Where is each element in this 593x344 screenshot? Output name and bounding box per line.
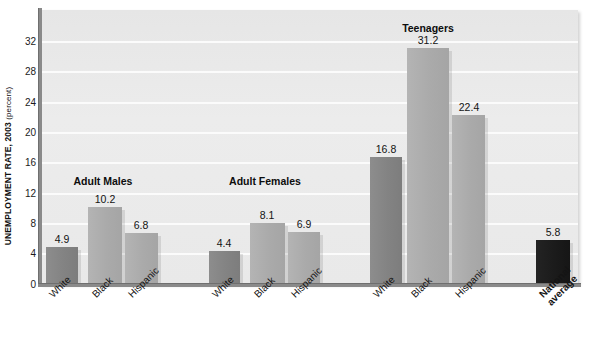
bar-value-adult-females-black: 8.1	[260, 209, 275, 221]
y-tick-20: 20	[14, 127, 36, 138]
y-tick-32: 32	[14, 36, 36, 47]
group-title-adult-males: Adult Males	[74, 175, 133, 187]
gridline-32	[41, 41, 578, 43]
y-tick-28: 28	[14, 66, 36, 77]
y-tick-0: 0	[14, 279, 36, 290]
gridline-28	[41, 71, 578, 73]
gridline-20	[41, 132, 578, 134]
bar-adult-males-black	[88, 207, 122, 284]
group-title-teenagers: Teenagers	[402, 22, 454, 34]
bar-value-teenagers-hispanic: 22.4	[459, 101, 479, 113]
bar-value-teenagers-black: 31.2	[418, 34, 438, 46]
y-tick-4: 4	[14, 248, 36, 259]
bar-teenagers-hispanic	[452, 115, 485, 284]
gridline-16	[41, 162, 578, 164]
bar-value-adult-females-white: 4.4	[217, 237, 232, 249]
bar-value-national-average: 5.8	[546, 226, 561, 238]
unemployment-rate-bar-chart: UNEMPLOYMENT RATE, 2003 (percent) Adult …	[0, 0, 593, 344]
bar-value-adult-males-white: 4.9	[55, 233, 70, 245]
y-tick-12: 12	[14, 188, 36, 199]
bar-value-adult-males-hispanic: 6.8	[134, 219, 149, 231]
group-title-adult-females: Adult Females	[229, 175, 301, 187]
gridline-24	[41, 102, 578, 104]
bar-value-teenagers-white: 16.8	[376, 143, 396, 155]
y-tick-24: 24	[14, 97, 36, 108]
bar-value-adult-females-hispanic: 6.9	[297, 218, 312, 230]
bar-teenagers-black	[407, 48, 449, 284]
y-tick-8: 8	[14, 218, 36, 229]
y-tick-labels: 32 28 24 20 16 12 8 4 0	[10, 0, 36, 344]
bar-teenagers-white	[370, 157, 402, 284]
gridline-12	[41, 193, 578, 195]
plot-area: Adult Males 4.9 10.2 6.8 Adult Females 4…	[41, 10, 578, 284]
y-tick-16: 16	[14, 157, 36, 168]
y-axis-line	[38, 8, 42, 285]
bar-value-adult-males-black: 10.2	[95, 193, 115, 205]
